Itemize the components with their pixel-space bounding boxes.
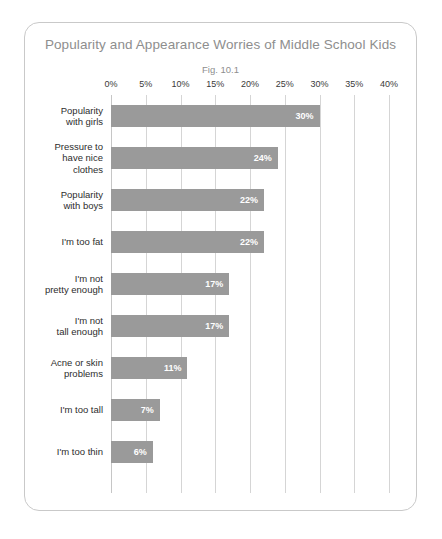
bar-value-label: 22% xyxy=(240,195,258,205)
bar-value-label: 17% xyxy=(205,321,223,331)
bar-value-label: 24% xyxy=(254,153,272,163)
bar: 24% xyxy=(111,147,278,169)
bar-row: Pressure tohave niceclothes24% xyxy=(25,137,416,179)
bar-row: Popularitywith girls30% xyxy=(25,95,416,137)
bar-value-label: 30% xyxy=(295,111,313,121)
bar: 22% xyxy=(111,189,264,211)
category-label: I'm nottall enough xyxy=(25,305,103,347)
x-tick-label: 25% xyxy=(276,79,294,89)
bar-row: I'm notpretty enough17% xyxy=(25,263,416,305)
bar: 7% xyxy=(111,399,160,421)
chart-card: Popularity and Appearance Worries of Mid… xyxy=(24,22,417,511)
category-label: I'm notpretty enough xyxy=(25,263,103,305)
category-label: I'm too thin xyxy=(25,431,103,473)
category-label: Popularitywith girls xyxy=(25,95,103,137)
x-tick-label: 10% xyxy=(171,79,189,89)
bar-value-label: 22% xyxy=(240,237,258,247)
category-label: Popularitywith boys xyxy=(25,179,103,221)
bar-value-label: 17% xyxy=(205,279,223,289)
bar-row: I'm too tall7% xyxy=(25,389,416,431)
bar-row: I'm nottall enough17% xyxy=(25,305,416,347)
category-label: Acne or skinproblems xyxy=(25,347,103,389)
x-axis-tick-labels: 0%5%10%15%20%25%30%35%40% xyxy=(111,79,389,93)
x-tick-label: 40% xyxy=(380,79,398,89)
chart-subtitle: Fig. 10.1 xyxy=(25,64,416,75)
chart-title: Popularity and Appearance Worries of Mid… xyxy=(25,37,416,52)
x-tick-label: 5% xyxy=(139,79,152,89)
bar: 11% xyxy=(111,357,187,379)
bar-row: I'm too fat22% xyxy=(25,221,416,263)
bar: 6% xyxy=(111,441,153,463)
bar: 17% xyxy=(111,273,229,295)
x-tick-label: 35% xyxy=(345,79,363,89)
x-tick-label: 0% xyxy=(104,79,117,89)
bar-rows: Popularitywith girls30%Pressure tohave n… xyxy=(25,95,416,493)
bar: 22% xyxy=(111,231,264,253)
bar-row: Acne or skinproblems11% xyxy=(25,347,416,389)
category-label: I'm too tall xyxy=(25,389,103,431)
bar-row: I'm too thin6% xyxy=(25,431,416,473)
category-label: Pressure tohave niceclothes xyxy=(25,137,103,179)
bar-value-label: 11% xyxy=(164,363,182,373)
bar-value-label: 7% xyxy=(141,405,154,415)
x-tick-label: 30% xyxy=(310,79,328,89)
bar: 30% xyxy=(111,105,320,127)
chart-screenshot: Popularity and Appearance Worries of Mid… xyxy=(0,0,442,539)
bar: 17% xyxy=(111,315,229,337)
category-label: I'm too fat xyxy=(25,221,103,263)
bar-row: Popularitywith boys22% xyxy=(25,179,416,221)
x-tick-label: 15% xyxy=(206,79,224,89)
bar-value-label: 6% xyxy=(134,447,147,457)
x-tick-label: 20% xyxy=(241,79,259,89)
